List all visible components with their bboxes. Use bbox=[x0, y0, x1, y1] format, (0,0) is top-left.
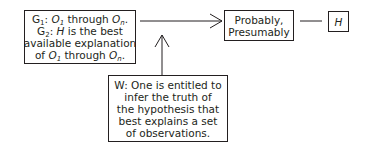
grounds-box: G1: O1 through On. G2: H is the best ava… bbox=[24, 10, 136, 64]
grounds-line-3: available explanation bbox=[24, 37, 136, 49]
grounds-line-2: G2: H is the best bbox=[37, 25, 123, 37]
warrant-line-2: infer the truth of bbox=[124, 91, 211, 103]
qualifier-line-2: Presumably bbox=[228, 26, 289, 38]
warrant-line-4: best explains a set bbox=[119, 115, 218, 127]
grounds-line-4: of O1 through On. bbox=[35, 49, 125, 61]
warrant-line-1: W: One is entitled to bbox=[114, 79, 221, 91]
qualifier-box: Probably, Presumably bbox=[224, 10, 294, 41]
warrant-line-3: the hypothesis that bbox=[117, 103, 219, 115]
warrant-line-5: of observations. bbox=[126, 127, 210, 139]
warrant-box: W: One is entitled to infer the truth of… bbox=[108, 75, 228, 142]
claim-box: H bbox=[328, 11, 349, 32]
grounds-line-1: G1: O1 through On. bbox=[32, 13, 128, 25]
qualifier-line-1: Probably, bbox=[235, 14, 284, 26]
claim-label: H bbox=[335, 16, 343, 28]
